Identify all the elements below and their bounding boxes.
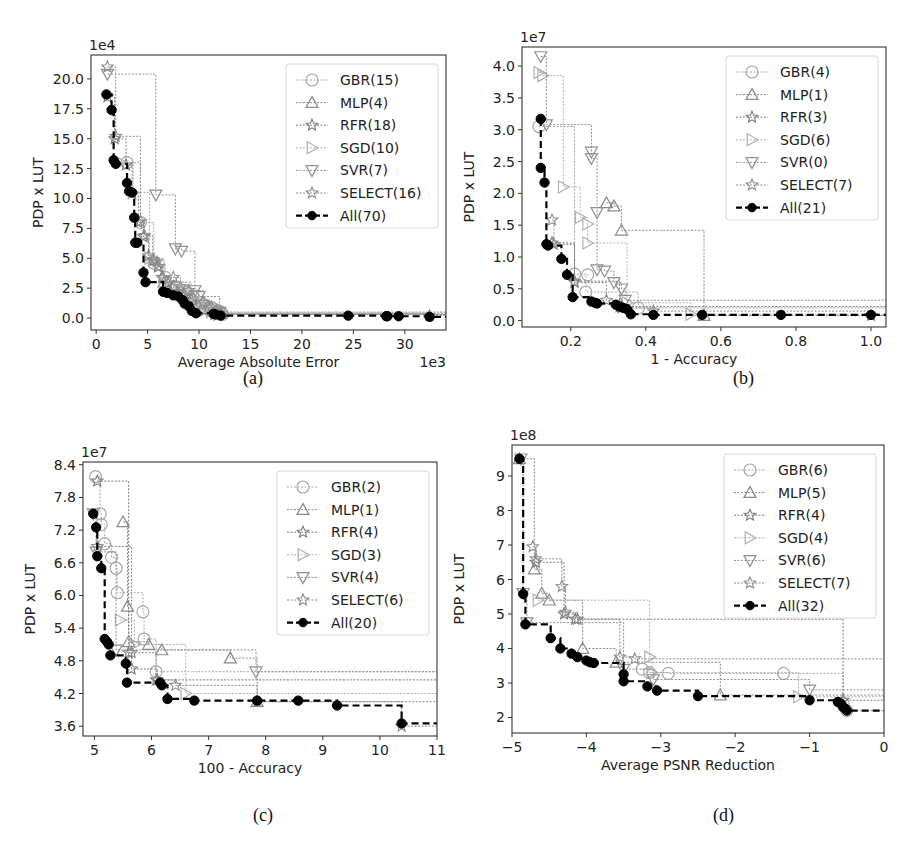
y-tick-label: 7 — [496, 537, 505, 553]
marker-star — [527, 541, 538, 552]
marker-triangle-up — [714, 689, 726, 700]
marker-all — [842, 706, 851, 715]
x-axis-label: Average PSNR Reduction — [601, 757, 775, 773]
y-axis-label: PDP x LUT — [451, 553, 467, 624]
marker-circle — [662, 667, 674, 679]
marker-all — [573, 652, 582, 661]
y-tick-label: 4 — [496, 640, 505, 656]
chart-svg-d: −5−4−3−2−1023456789Average PSNR Reductio… — [0, 0, 915, 855]
marker-all — [746, 601, 755, 610]
x-tick-label: −5 — [502, 739, 523, 755]
marker-all — [521, 620, 530, 629]
y-tick-label: 8 — [496, 503, 505, 519]
y-tick-label: 9 — [496, 468, 505, 484]
legend-label: SGD(4) — [778, 530, 828, 546]
legend-label: All(32) — [778, 598, 824, 614]
marker-all — [643, 682, 652, 691]
marker-triangle-up — [543, 594, 555, 605]
x-tick-label: −4 — [576, 739, 597, 755]
y-tick-label: 6 — [496, 572, 505, 588]
x-tick-label: −2 — [725, 739, 746, 755]
caption-d: (d) — [713, 805, 734, 826]
chart-panel-d: −5−4−3−2−1023456789Average PSNR Reductio… — [0, 0, 915, 855]
y-tick-label: 2 — [496, 709, 505, 725]
y-tick-label: 3 — [496, 675, 505, 691]
y-scale-multiplier: 1e8 — [510, 427, 536, 443]
legend-label: SELECT(7) — [778, 575, 851, 591]
legend: GBR(6)MLP(5)RFR(4)SGD(4)SVR(6)SELECT(7)A… — [724, 454, 876, 618]
marker-all — [652, 686, 661, 695]
legend-label: GBR(6) — [778, 462, 828, 478]
marker-all — [518, 589, 527, 598]
marker-triangle-down — [804, 685, 816, 696]
marker-all — [556, 644, 565, 653]
marker-all — [546, 633, 555, 642]
x-tick-label: −1 — [799, 739, 820, 755]
y-tick-label: 5 — [496, 606, 505, 622]
x-tick-label: 0 — [880, 739, 889, 755]
legend-label: SVR(6) — [778, 552, 826, 568]
legend-label: RFR(4) — [778, 507, 825, 523]
marker-all — [805, 696, 814, 705]
marker-all — [693, 691, 702, 700]
legend-label: MLP(5) — [778, 485, 826, 501]
marker-all — [619, 677, 628, 686]
marker-all — [515, 454, 524, 463]
legend-item-gbr: GBR(6) — [734, 462, 828, 478]
marker-all — [589, 658, 598, 667]
x-tick-label: −3 — [650, 739, 671, 755]
